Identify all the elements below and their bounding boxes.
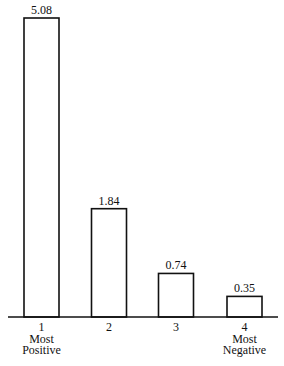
x-tick-label-3: 3	[173, 320, 179, 334]
x-tick-label-2: 2	[106, 320, 112, 334]
bars-group	[24, 18, 262, 317]
bar-chart: 5.081MostPositive1.8420.7430.354MostNega…	[0, 0, 284, 366]
x-sublabel-4-2: Negative	[223, 343, 266, 357]
data-label-3: 0.74	[166, 258, 187, 272]
x-sublabel-1-2: Positive	[22, 343, 61, 357]
bar-3	[159, 273, 194, 317]
bar-1	[24, 18, 59, 317]
bar-4	[227, 296, 262, 317]
data-label-2: 1.84	[99, 194, 120, 208]
bar-2	[92, 209, 127, 317]
data-label-1: 5.08	[31, 3, 52, 17]
data-label-4: 0.35	[234, 281, 255, 295]
